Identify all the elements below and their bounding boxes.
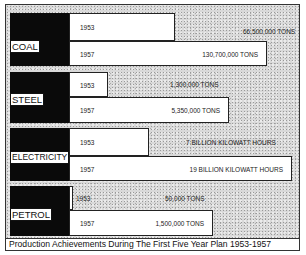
year-label: 1953: [80, 81, 94, 88]
year-label: 1957: [80, 107, 94, 114]
value-label: 66,500,000 TONS: [243, 28, 295, 35]
bar-1957: 195719 BILLION KILOWATT HOURS: [69, 156, 292, 181]
year-label: 1953: [80, 24, 94, 31]
bar-1953: [69, 186, 73, 210]
bar-1953: 1953: [69, 72, 108, 97]
year-label: 1957: [80, 50, 94, 57]
year-label: 1957: [80, 220, 94, 227]
bar-1957: 1957130,700,000 TONS: [69, 41, 267, 66]
category-label: STEEL: [10, 93, 44, 106]
bar-1953: 1953: [69, 13, 175, 41]
bar-1957: 19571,500,000 TONS: [69, 210, 213, 236]
year-label: 1953: [76, 195, 90, 202]
value-label: 130,700,000 TONS: [202, 51, 258, 58]
value-label: 7 BILLION KILOWATT HOURS: [186, 139, 276, 146]
value-label: 50,000 TONS: [165, 195, 205, 202]
year-label: 1957: [80, 165, 94, 172]
value-label: 1,500,000 TONS: [155, 220, 204, 227]
value-label: 1,300,000 TONS: [170, 81, 219, 88]
year-label: 1953: [80, 139, 94, 146]
chart-caption: Production Achievements During The First…: [5, 238, 300, 251]
value-label: 5,350,000 TONS: [171, 107, 220, 114]
bar-1957: 19575,350,000 TONS: [69, 97, 229, 123]
category-label: COAL: [10, 40, 40, 53]
value-label: 19 BILLION KILOWATT HOURS: [190, 166, 283, 173]
category-label: PETROL: [10, 208, 52, 221]
category-label: ELECTRICITY: [10, 151, 69, 164]
bar-1953: 1953: [69, 128, 149, 156]
